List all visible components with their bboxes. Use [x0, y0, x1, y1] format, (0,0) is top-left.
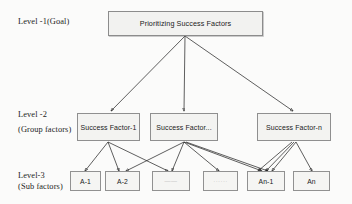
group2-to-sub-links: [126, 142, 268, 171]
group3-to-sub-links: [258, 142, 312, 171]
level-1-label: Level -1(Goal): [18, 16, 69, 27]
goal-to-group-links: [111, 36, 293, 111]
level-2-label-line1: Level -2: [18, 109, 47, 120]
sub-factor-a2-label: A-2: [115, 178, 130, 185]
sub-factor-an-node[interactable]: An: [293, 171, 330, 191]
goal-node[interactable]: Prioritizing Success Factors: [108, 11, 263, 36]
sub-factor-an-1-label: An-1: [257, 178, 276, 185]
sub-factor-a1-node[interactable]: A-1: [70, 171, 101, 191]
sub-factor-an-label: An: [305, 178, 318, 185]
sub-factor-placeholder-1-node[interactable]: ——: [152, 171, 190, 191]
goal-node-label: Prioritizing Success Factors: [138, 19, 233, 28]
group-factor-1-label: Success Factor-1: [78, 124, 138, 131]
group-factor-2-label: Success Factor...: [154, 124, 213, 131]
group-factor-n-node[interactable]: Success Factor-n: [257, 113, 331, 141]
level-3-label-line1: Level-3: [18, 170, 45, 181]
group-factor-1-node[interactable]: Success Factor-1: [77, 113, 140, 141]
group-factor-n-label: Success Factor-n: [264, 124, 324, 131]
ahp-hierarchy-diagram: Level -1(Goal) Level -2 (Group factors) …: [0, 0, 352, 204]
group1-to-sub-links: [85, 142, 168, 171]
sub-factor-placeholder-2-label: ······: [211, 178, 229, 184]
group-factor-2-node[interactable]: Success Factor...: [150, 113, 218, 141]
level-2-label-line2: (Group factors): [18, 124, 71, 135]
sub-factor-placeholder-1-label: ——: [163, 178, 180, 184]
sub-factor-an-1-node[interactable]: An-1: [247, 171, 285, 191]
sub-factor-placeholder-2-node[interactable]: ······: [203, 171, 238, 191]
level-3-label-line2: (Sub factors): [18, 181, 63, 192]
sub-factor-a1-label: A-1: [78, 178, 93, 185]
sub-factor-a2-node[interactable]: A-2: [105, 171, 140, 191]
